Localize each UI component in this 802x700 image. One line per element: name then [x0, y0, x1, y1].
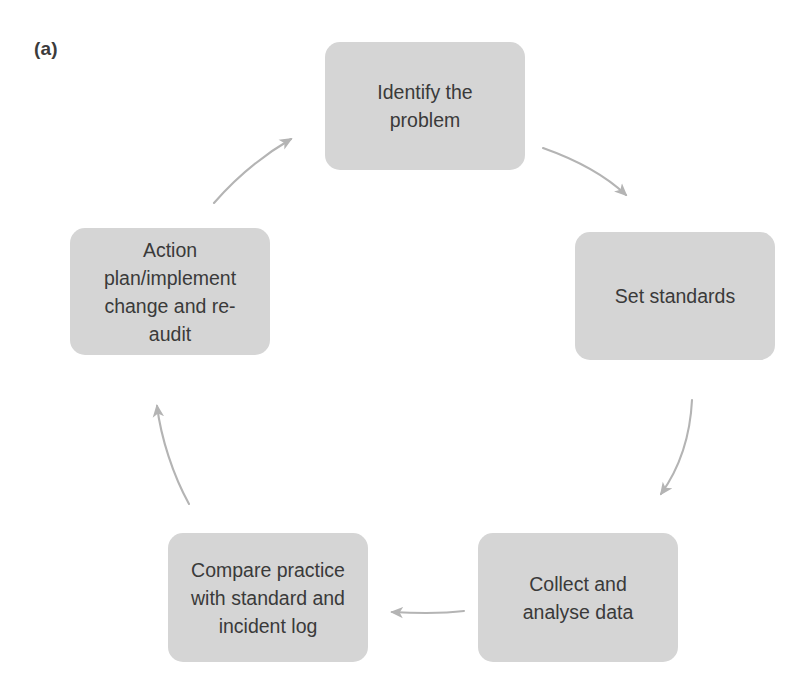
node-compare-practice-with-standard-label: Compare practice with standard and incid… — [191, 556, 345, 640]
arrow-collect-to-compare — [392, 611, 464, 613]
node-identify-the-problem-label: Identify the problem — [377, 78, 472, 134]
arrow-identify-to-standards — [543, 148, 626, 195]
figure-clinical-audit-cycle: (a) Identify the problem Set standards C… — [0, 0, 802, 700]
node-compare-practice-with-standard[interactable]: Compare practice with standard and incid… — [168, 533, 368, 662]
arrow-action-to-identify — [214, 139, 291, 203]
arrow-compare-to-action — [157, 406, 189, 504]
node-action-plan-implement-change[interactable]: Action plan/implement change and re- aud… — [70, 228, 270, 355]
node-set-standards[interactable]: Set standards — [575, 232, 775, 360]
node-identify-the-problem[interactable]: Identify the problem — [325, 42, 525, 170]
node-collect-and-analyse-data-label: Collect and analyse data — [523, 570, 634, 626]
node-action-plan-implement-change-label: Action plan/implement change and re- aud… — [104, 236, 236, 348]
arrow-standards-to-collect — [661, 400, 692, 494]
node-set-standards-label: Set standards — [615, 282, 735, 310]
node-collect-and-analyse-data[interactable]: Collect and analyse data — [478, 533, 678, 662]
